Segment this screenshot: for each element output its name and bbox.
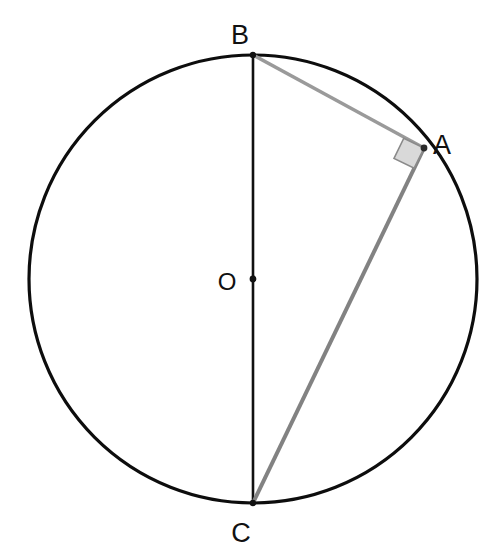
vertex-label-b: B: [231, 20, 249, 50]
vertex-dot-b: [250, 52, 256, 58]
geometry-canvas: B A C O: [0, 0, 493, 556]
figure-background: [0, 0, 493, 556]
vertex-label-a: A: [433, 130, 451, 160]
center-dot-o: [250, 276, 257, 283]
geometry-figure: B A C O: [0, 0, 493, 556]
center-label-o: O: [218, 268, 237, 295]
vertex-label-c: C: [231, 518, 251, 548]
vertex-dot-a: [421, 145, 428, 152]
vertex-dot-c: [250, 500, 256, 506]
